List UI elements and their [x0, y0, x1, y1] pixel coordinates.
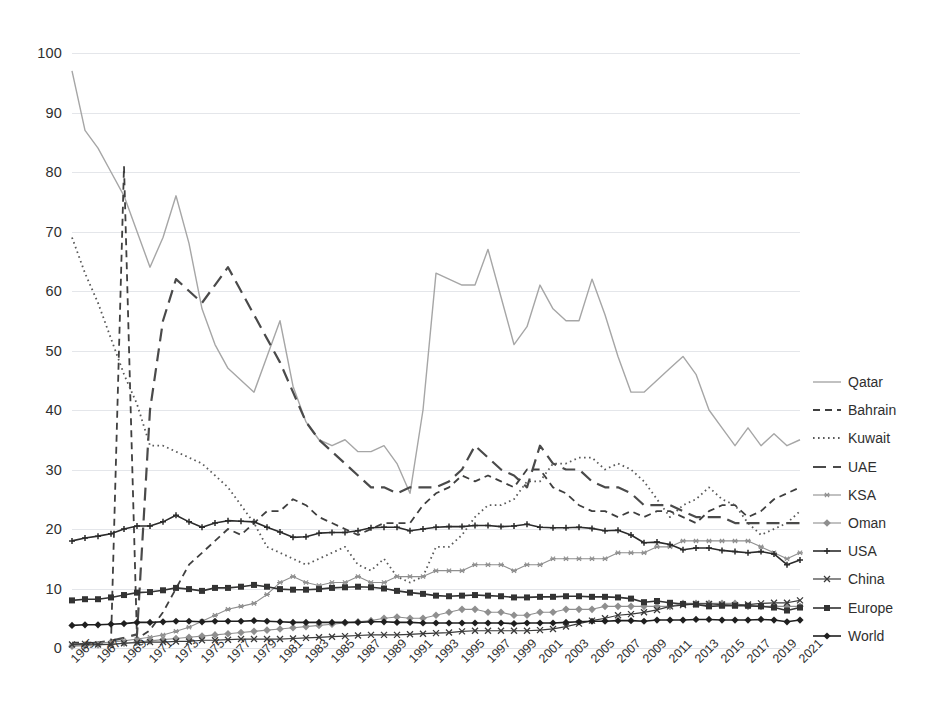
data-point	[706, 539, 712, 543]
data-point	[666, 616, 673, 623]
data-point	[459, 569, 465, 573]
legend-item-europe[interactable]: Europe	[812, 594, 932, 622]
data-point	[419, 619, 426, 626]
data-point	[302, 619, 309, 626]
data-point	[446, 524, 452, 530]
data-point	[627, 617, 634, 624]
data-point	[497, 619, 504, 626]
data-point	[238, 604, 244, 608]
legend-label: China	[848, 572, 885, 586]
data-point	[263, 626, 271, 634]
legend-swatch-icon	[812, 375, 842, 389]
data-point	[355, 528, 361, 534]
legend-item-china[interactable]: China	[812, 565, 932, 593]
legend-item-bahrain[interactable]: Bahrain	[812, 396, 932, 424]
data-point	[238, 518, 244, 524]
data-point	[316, 530, 322, 536]
data-point	[563, 593, 569, 599]
data-point	[523, 611, 531, 619]
data-point	[472, 522, 478, 528]
data-point	[628, 551, 634, 555]
data-point	[732, 549, 738, 555]
data-point	[563, 557, 569, 561]
legend-item-oman[interactable]: Oman	[812, 509, 932, 537]
legend-item-uae[interactable]: UAE	[812, 453, 932, 481]
data-point	[146, 619, 153, 626]
data-point	[107, 621, 114, 628]
y-tick-label: 40	[45, 402, 62, 418]
legend-item-usa[interactable]: USA	[812, 537, 932, 565]
series-kuwait	[72, 237, 800, 582]
data-point	[797, 605, 803, 611]
legend-item-world[interactable]: World	[812, 622, 932, 650]
data-point	[406, 619, 413, 626]
y-tick-label: 10	[45, 581, 62, 597]
data-point	[251, 601, 257, 605]
data-point	[537, 563, 543, 567]
legend-item-qatar[interactable]: Qatar	[812, 368, 932, 396]
data-point	[433, 569, 439, 573]
y-tick-label: 90	[45, 105, 62, 121]
data-point	[589, 557, 595, 561]
y-tick-label: 100	[37, 45, 62, 61]
y-tick-label: 70	[45, 224, 62, 240]
legend-item-ksa[interactable]: KSA	[812, 481, 932, 509]
data-point	[264, 524, 270, 530]
data-point	[471, 619, 478, 626]
data-point	[108, 594, 114, 600]
data-point	[667, 600, 673, 606]
data-point	[277, 580, 283, 584]
data-point	[602, 594, 608, 600]
data-point	[719, 547, 725, 553]
data-point	[250, 617, 257, 624]
data-point	[510, 620, 517, 627]
legend-item-kuwait[interactable]: Kuwait	[812, 424, 932, 452]
data-point	[303, 580, 309, 584]
data-point	[133, 619, 140, 626]
series-line	[72, 515, 800, 564]
data-point	[303, 534, 309, 540]
legend-label: Oman	[848, 516, 886, 530]
data-point	[602, 557, 608, 561]
data-point	[341, 619, 348, 626]
data-point	[589, 594, 595, 600]
data-point	[94, 621, 101, 628]
data-point	[485, 563, 491, 567]
data-point	[342, 580, 348, 584]
data-point	[212, 585, 218, 591]
data-point	[446, 569, 452, 573]
data-point	[121, 526, 127, 532]
data-point	[420, 591, 426, 597]
data-point	[549, 609, 557, 617]
data-point	[445, 609, 453, 617]
data-point	[381, 586, 387, 592]
plot-area	[72, 53, 800, 648]
data-point	[705, 616, 712, 623]
data-point	[276, 618, 283, 625]
data-point	[758, 603, 764, 609]
data-point	[576, 593, 582, 599]
data-point	[81, 621, 88, 628]
data-point	[303, 587, 309, 593]
data-point	[173, 512, 179, 518]
data-point	[485, 593, 491, 599]
data-point	[524, 521, 530, 527]
data-point	[550, 594, 556, 600]
data-point	[264, 584, 270, 590]
data-point	[354, 619, 361, 626]
data-point	[641, 599, 647, 605]
data-point	[277, 529, 283, 535]
data-point	[420, 575, 426, 579]
data-point	[316, 586, 322, 592]
data-point	[757, 616, 764, 623]
data-point	[602, 528, 608, 534]
data-point	[563, 525, 569, 531]
y-tick-label: 20	[45, 521, 62, 537]
data-point	[290, 534, 296, 540]
data-point	[589, 525, 595, 531]
data-point	[654, 539, 660, 545]
data-point	[186, 625, 192, 629]
legend-label: Bahrain	[848, 403, 896, 417]
data-point	[147, 589, 153, 595]
data-point	[524, 594, 530, 600]
